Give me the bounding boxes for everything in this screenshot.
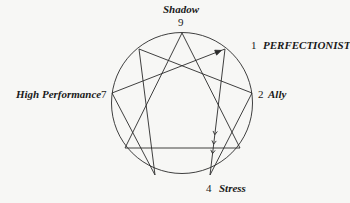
label-perfectionist: PERFECTIONIST [263,39,350,51]
label-ally: Ally [268,88,286,100]
arrow-head-icon [215,50,222,55]
label-stress: Stress [219,182,246,194]
label-point-4: 4 [206,182,212,194]
label-shadow: Shadow [163,3,199,15]
label-point-9: 9 [178,16,184,28]
label-high-performance: High Performance [16,88,101,100]
label-point-2: 2 [258,88,264,100]
label-point-1: 1 [251,39,257,51]
label-point-7: 7 [101,88,107,100]
outer-circle [112,33,253,174]
hexad-figure [112,49,252,175]
